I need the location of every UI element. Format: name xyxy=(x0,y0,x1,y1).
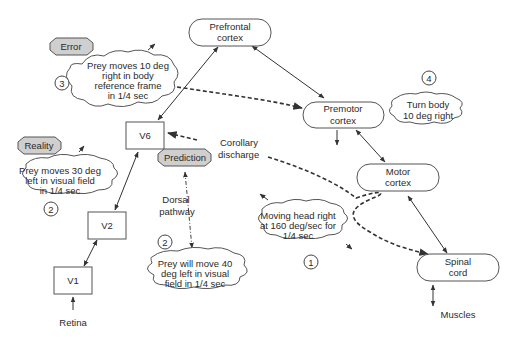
cloud-error: Prey moves 10 deg right in body referenc… xyxy=(66,50,178,106)
reality-tick-arrow xyxy=(79,146,84,152)
svg-text:3: 3 xyxy=(59,78,64,89)
muscles-label: Muscles xyxy=(441,309,476,320)
corollary-label-1: Corollary xyxy=(220,137,258,148)
tag-error: Error xyxy=(50,38,93,55)
node-spinal: Spinal cord xyxy=(417,254,499,281)
head-tick-arrow-1 xyxy=(260,194,268,200)
cloud-reality: Prey moves 30 deg left in visual field i… xyxy=(19,154,117,196)
svg-text:1: 1 xyxy=(308,257,313,268)
retina-label: Retina xyxy=(59,317,87,328)
svg-text:2: 2 xyxy=(162,237,167,248)
svg-text:Premotor: Premotor xyxy=(323,103,362,114)
v2-v1-link xyxy=(84,240,97,266)
svg-text:2: 2 xyxy=(48,204,53,215)
dorsal-label-1: Dorsal xyxy=(162,194,189,205)
step-2-reality: 2 xyxy=(44,202,58,216)
node-v1: V1 xyxy=(54,267,92,294)
step-4: 4 xyxy=(422,71,436,85)
svg-text:V1: V1 xyxy=(67,275,79,286)
svg-text:Error: Error xyxy=(60,41,81,52)
cloud-prediction: Prey will move 40 deg left in visual fie… xyxy=(147,247,247,289)
corollary-label-2: discharge xyxy=(218,149,259,160)
step-1: 1 xyxy=(304,255,318,269)
node-premotor: Premotor cortex xyxy=(303,102,384,128)
svg-text:V2: V2 xyxy=(101,220,113,231)
tag-reality: Reality xyxy=(18,137,61,154)
premotor-motor-link xyxy=(356,130,385,162)
svg-text:cortex: cortex xyxy=(330,115,356,126)
v6-v2-link xyxy=(115,152,138,210)
svg-text:Prefrontal: Prefrontal xyxy=(209,21,250,32)
svg-text:in 1/4 sec: in 1/4 sec xyxy=(108,90,149,101)
svg-text:10 deg right: 10 deg right xyxy=(403,110,454,121)
error-to-premotor-dash xyxy=(177,87,302,108)
step-3: 3 xyxy=(55,76,69,90)
svg-text:Reality: Reality xyxy=(24,140,53,151)
svg-text:1/4 sec: 1/4 sec xyxy=(283,230,314,241)
corollary-to-v6-dash xyxy=(168,133,197,140)
error-tick-arrow xyxy=(148,44,155,50)
svg-text:V6: V6 xyxy=(139,130,151,141)
svg-text:cortex: cortex xyxy=(217,32,243,43)
step-2-prediction: 2 xyxy=(158,235,172,249)
svg-text:cortex: cortex xyxy=(385,177,411,188)
node-v6: V6 xyxy=(126,122,164,149)
svg-text:Spinal: Spinal xyxy=(445,256,471,267)
prefrontal-premotor-link xyxy=(252,46,324,98)
svg-text:Motor: Motor xyxy=(386,166,410,177)
svg-text:Turn body: Turn body xyxy=(407,99,450,110)
dorsal-label-2: pathway xyxy=(159,206,195,217)
svg-text:field in 1/4 sec: field in 1/4 sec xyxy=(165,278,226,289)
head-tick-arrow-2 xyxy=(346,244,352,249)
svg-text:4: 4 xyxy=(426,73,431,84)
svg-text:Prediction: Prediction xyxy=(164,152,206,163)
node-v2: V2 xyxy=(88,212,126,239)
tag-prediction: Prediction xyxy=(158,149,211,166)
node-prefrontal: Prefrontal cortex xyxy=(189,19,271,46)
cloud-head-motion: Moving head right at 160 deg/sec for 1/4… xyxy=(258,199,347,241)
diagram-canvas: Prefrontal cortex Premotor cortex Motor … xyxy=(0,0,515,340)
svg-text:in 1/4 sec: in 1/4 sec xyxy=(40,185,81,196)
cloud-turn-body: Turn body 10 deg right xyxy=(389,92,462,124)
motor-spinal-link xyxy=(408,196,447,253)
node-motor: Motor cortex xyxy=(357,164,439,191)
svg-text:cord: cord xyxy=(449,267,467,278)
